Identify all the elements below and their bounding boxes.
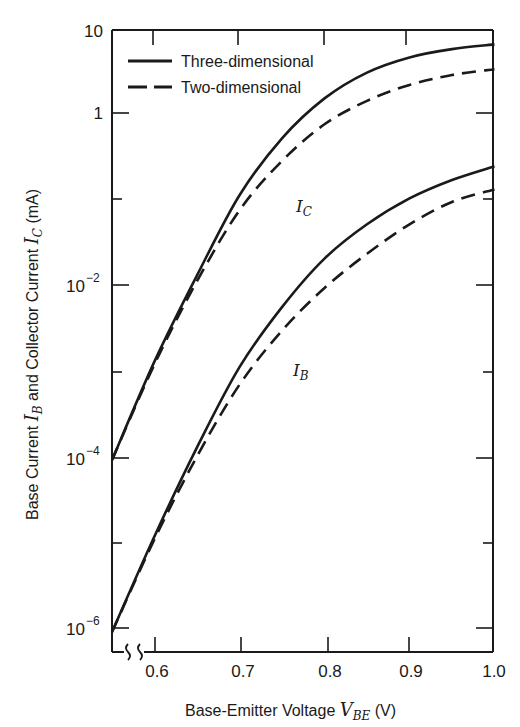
legend: Three-dimensional Two-dimensional [128, 53, 314, 96]
ytick-1: 1 [94, 104, 103, 123]
xtick-0.6: 0.6 [145, 662, 169, 681]
svg-text:10: 10 [66, 620, 85, 639]
curve-ib-two-dimensional [112, 189, 495, 632]
x-tick-labels: 0.6 0.7 0.8 0.9 1.0 [145, 662, 506, 681]
axis-break-icon [126, 644, 142, 660]
svg-text:−4: −4 [86, 444, 100, 458]
y-tick-labels: 10 1 10 −2 10 −4 10 −6 [66, 22, 103, 639]
svg-text:−2: −2 [86, 271, 100, 285]
curve-ic-two-dimensional [112, 69, 495, 460]
svg-text:−6: −6 [86, 614, 100, 628]
legend-label-three-dimensional: Three-dimensional [181, 53, 314, 70]
plot-frame [112, 30, 493, 652]
ytick-1e-6: 10 −6 [66, 614, 100, 639]
curve-ib-three-dimensional [112, 166, 495, 632]
y-axis-title: Base Current IB and Collector Current IC… [21, 189, 45, 520]
ytick-1e-4: 10 −4 [66, 444, 100, 469]
x-axis-title: Base-Emitter Voltage VBE (V) [185, 699, 396, 723]
xtick-1.0: 1.0 [482, 662, 506, 681]
xtick-0.8: 0.8 [318, 662, 342, 681]
curve-ic-three-dimensional [112, 44, 495, 460]
curve-label-ic: IC [295, 196, 312, 219]
curves [112, 44, 495, 632]
ytick-1e-2: 10 −2 [66, 271, 100, 296]
chart: 10 1 10 −2 10 −4 10 −6 0.6 0.7 0.8 0.9 1… [0, 0, 520, 727]
svg-text:10: 10 [66, 450, 85, 469]
svg-text:10: 10 [66, 277, 85, 296]
curve-label-ib: IB [292, 360, 309, 383]
legend-label-two-dimensional: Two-dimensional [181, 79, 301, 96]
xtick-0.9: 0.9 [399, 662, 423, 681]
ytick-10: 10 [84, 22, 103, 41]
x-ticks [153, 30, 409, 652]
xtick-0.7: 0.7 [231, 662, 255, 681]
